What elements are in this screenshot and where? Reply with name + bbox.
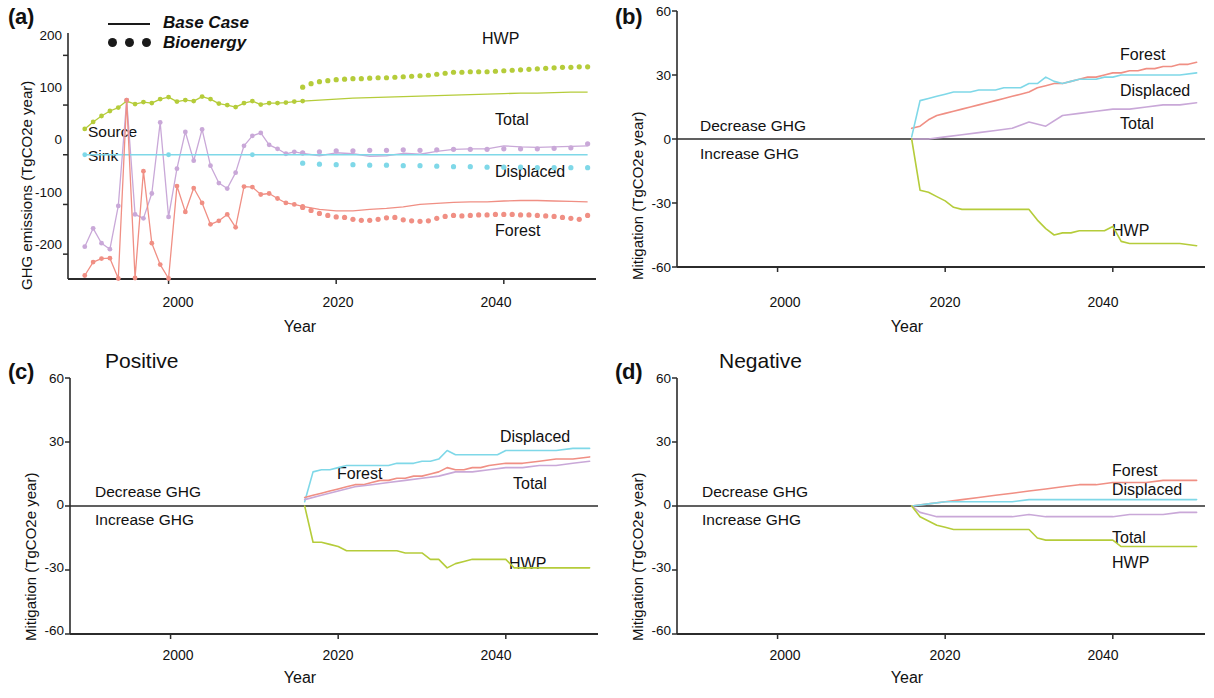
panel-c-plot — [0, 349, 607, 698]
panel-b: (b) Mitigation (TgCO2e year) Year 60 30 … — [607, 0, 1214, 349]
panel-d-plot — [607, 349, 1214, 698]
panel-d: (d) Negative Mitigation (TgCO2e year) Ye… — [607, 349, 1214, 698]
panel-c: (c) Positive Mitigation (TgCO2e year) Ye… — [0, 349, 607, 698]
figure-root: (a) GHG emissions (TgCO2e year) Year 200… — [0, 0, 1214, 698]
panel-a: (a) GHG emissions (TgCO2e year) Year 200… — [0, 0, 607, 349]
panel-b-plot — [607, 0, 1214, 349]
panel-a-plot — [0, 0, 607, 349]
